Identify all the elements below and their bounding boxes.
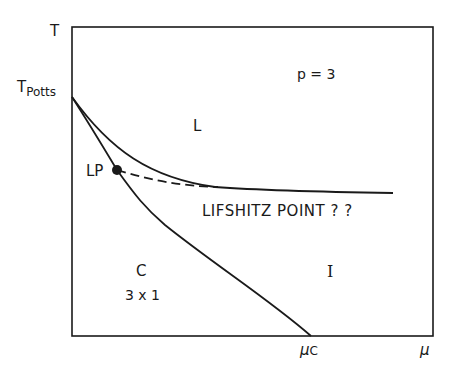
x-tick-sub: C [310,344,318,358]
upper-phase-boundary [72,97,393,193]
y-tick-main: T [17,78,26,96]
lifshitz-point-label: LP [86,164,103,179]
y-axis-label: T [50,24,59,39]
region-label-liquid: L [193,119,201,134]
x-tick-main: μ [300,341,310,359]
region-label-structure: 3 x 1 [125,288,160,302]
phase-diagram-canvas [0,0,460,374]
x-axis-label: μ [420,343,430,358]
y-tick-sub: Potts [26,85,56,99]
parameter-label: p = 3 [297,67,335,81]
lifshitz-point-marker [112,165,122,175]
region-label-incommensurate: I [327,264,333,280]
region-label-commensurate: C [136,264,146,279]
y-tick-t-potts: TPotts [17,80,56,95]
annotation-lifshitz-question: LIFSHITZ POINT ? ? [202,204,353,219]
x-tick-mu-c: μC [300,343,318,358]
